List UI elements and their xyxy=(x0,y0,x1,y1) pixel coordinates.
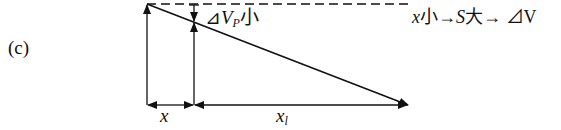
diagonal-line xyxy=(147,4,408,105)
note-text-1: 小→ xyxy=(420,7,456,27)
delta-vp-label: ⊿VP小 xyxy=(205,8,259,29)
xl-subscript: l xyxy=(284,114,287,128)
panel-label: (c) xyxy=(8,38,29,57)
p-subscript: P xyxy=(233,16,240,30)
x-label: x xyxy=(160,106,168,125)
v-symbol: V xyxy=(221,7,233,28)
small-text: 小 xyxy=(240,7,259,28)
note-text-2: 大→ ⊿V xyxy=(465,7,537,27)
relation-note: x小→S大→ ⊿V xyxy=(412,8,537,26)
note-s: S xyxy=(456,7,465,27)
note-x: x xyxy=(412,7,420,27)
delta-symbol: ⊿ xyxy=(205,7,221,28)
xl-label: xl xyxy=(276,106,288,127)
